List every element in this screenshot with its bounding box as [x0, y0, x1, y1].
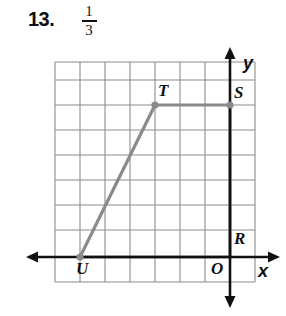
x-axis-arrow-right [268, 252, 280, 263]
vertex-label-U: U [76, 260, 88, 277]
coordinate-grid-figure: T S R U O x y [0, 0, 286, 316]
y-axis-label: y [243, 54, 253, 72]
grid-svg [0, 0, 286, 316]
y-axis-arrow-up [225, 47, 236, 59]
vertex-dot-S [226, 101, 233, 108]
vertex-label-S: S [234, 84, 243, 101]
x-axis-arrow-left [26, 252, 38, 263]
y-axis-arrow-down [225, 296, 236, 308]
vertex-label-R: R [234, 230, 245, 247]
vertex-label-T: T [158, 82, 168, 99]
x-axis-label: x [258, 262, 268, 280]
vertex-dot-T [151, 101, 158, 108]
origin-label: O [211, 260, 223, 277]
